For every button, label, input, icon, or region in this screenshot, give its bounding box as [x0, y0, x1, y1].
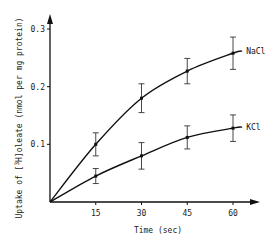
y-tick-label: 0.2 — [31, 83, 46, 92]
y-axis-label: Uptake of [3H]oleate (nmol per mg protei… — [13, 17, 24, 218]
data-point-marker — [94, 143, 97, 146]
uptake-chart: 0.10.20.315304560 NaClKCl Time (sec) Upt… — [0, 0, 273, 244]
series-label-kcl: KCl — [246, 123, 261, 132]
y-tick-label: 0.1 — [31, 140, 46, 149]
axes: 0.10.20.315304560 — [31, 14, 260, 218]
data-point-marker — [140, 97, 143, 100]
data-point-marker — [232, 127, 235, 130]
x-axis-label: Time (sec) — [134, 226, 182, 235]
series-curve — [50, 51, 242, 202]
series-label-nacl: NaCl — [246, 47, 265, 56]
x-tick-label: 30 — [137, 209, 147, 218]
x-tick-label: 60 — [228, 209, 238, 218]
x-tick-label: 15 — [91, 209, 101, 218]
y-axis-arrow-icon — [47, 14, 53, 24]
x-tick-label: 45 — [182, 209, 192, 218]
y-tick-label: 0.3 — [31, 25, 46, 34]
data-point-marker — [186, 70, 189, 73]
x-axis-arrow-icon — [250, 199, 260, 205]
data-point-marker — [94, 175, 97, 178]
data-point-marker — [140, 154, 143, 157]
data-point-marker — [232, 52, 235, 55]
series-kcl: KCl — [50, 115, 261, 202]
series-group: NaClKCl — [50, 37, 266, 202]
data-point-marker — [186, 136, 189, 139]
